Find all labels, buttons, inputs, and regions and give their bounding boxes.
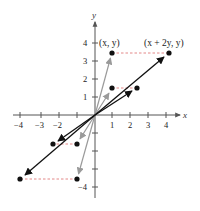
label-transformed-point: (x + 2y, y) xyxy=(144,38,184,49)
vector-transformed xyxy=(58,115,95,141)
vector-transformed xyxy=(95,57,164,115)
shear-transformation-chart: x y −4 −3 −2 1 2 3 4 4 3 2 1 −4 xyxy=(0,0,200,211)
x-tick-label: −2 xyxy=(53,120,62,130)
point-transformed xyxy=(17,176,22,181)
x-axis-label: x xyxy=(182,110,187,120)
y-tick-label: 3 xyxy=(83,56,87,66)
vector-original xyxy=(79,115,96,174)
y-tick-label: 4 xyxy=(83,38,88,48)
point-transformed xyxy=(134,85,139,90)
y-tick-label: 1 xyxy=(83,92,87,102)
point-transformed xyxy=(166,50,171,55)
vector-original xyxy=(95,93,109,115)
x-tick-label: 1 xyxy=(110,120,114,130)
x-tick-label: 3 xyxy=(146,120,150,130)
vector-original xyxy=(80,115,95,139)
point-transformed xyxy=(50,141,55,146)
point-original xyxy=(74,176,79,181)
y-axis-label: y xyxy=(91,10,96,20)
y-tick-label: 2 xyxy=(83,74,87,84)
x-tick-label: 2 xyxy=(128,120,132,130)
label-original-point: (x, y) xyxy=(99,38,120,49)
x-tick-label: 4 xyxy=(164,120,169,130)
point-original xyxy=(109,50,114,55)
point-original xyxy=(109,85,114,90)
x-tick-label: −3 xyxy=(35,120,44,130)
y-tick-label: −4 xyxy=(78,182,88,192)
x-tick-label: −4 xyxy=(14,120,24,130)
point-original xyxy=(74,141,79,146)
